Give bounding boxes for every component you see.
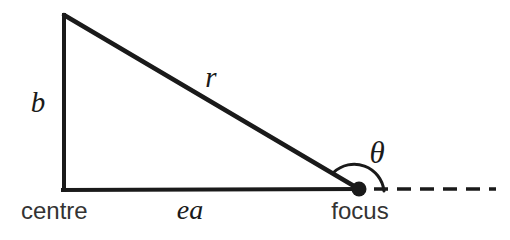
figure-root: b r ea θ centre focus [0,0,510,240]
label-centre: centre [21,197,88,224]
focus-point-dot [352,182,367,197]
hypotenuse-line [64,15,359,189]
label-theta: θ [369,135,384,170]
label-b: b [31,86,46,118]
label-ea: ea [177,194,203,225]
label-r: r [205,61,217,93]
label-focus: focus [331,197,388,224]
horizontal-leg-line [63,189,360,190]
triangle-diagram: b r ea θ centre focus [0,0,510,240]
